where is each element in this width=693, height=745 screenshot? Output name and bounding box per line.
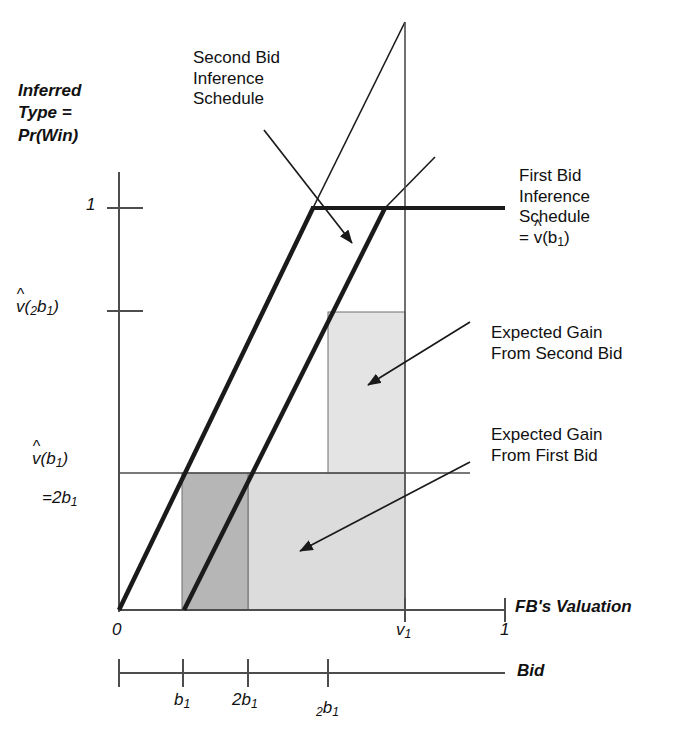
annotation-expected-gain-first: Expected GainFrom First Bid: [491, 425, 603, 466]
y-axis-title: InferredType =Pr(Win): [18, 80, 81, 147]
auction-inference-diagram: [0, 0, 693, 745]
bid-axis-title: Bid: [517, 661, 544, 682]
x-tick-label-zero: 0: [112, 620, 121, 641]
y-tick-label-one: 1: [86, 195, 95, 216]
annotation-second-bid-schedule: Second BidInferenceSchedule: [193, 48, 280, 110]
x-tick-label-v1: v1: [396, 620, 411, 642]
y-tick-label-vhat-b1: v^(b1): [32, 449, 68, 471]
shade-expected-gain-first: [248, 473, 405, 610]
bid-tick-label-sub2-b1: 2b1: [316, 698, 339, 720]
shade-expected-gain-second: [328, 312, 405, 473]
x-axis-title: FB's Valuation: [515, 597, 632, 618]
y-tick-label-vhat-b1-equals: =2b1: [42, 488, 78, 510]
bid-tick-label-2b1: 2b1: [232, 690, 258, 712]
annotation-expected-gain-second: Expected GainFrom Second Bid: [491, 323, 622, 364]
x-tick-label-one: 1: [500, 620, 509, 641]
arrow-second-bid-schedule: [264, 130, 352, 243]
thin-extension-second-schedule: [385, 157, 435, 208]
bid-tick-label-b1: b1: [174, 690, 190, 712]
thin-extension-first-schedule: [313, 22, 405, 208]
annotation-first-bid-schedule: First BidInferenceSchedule= v^(b1): [519, 166, 590, 251]
y-tick-label-vhat-2b1: v^(2b1): [16, 297, 59, 319]
